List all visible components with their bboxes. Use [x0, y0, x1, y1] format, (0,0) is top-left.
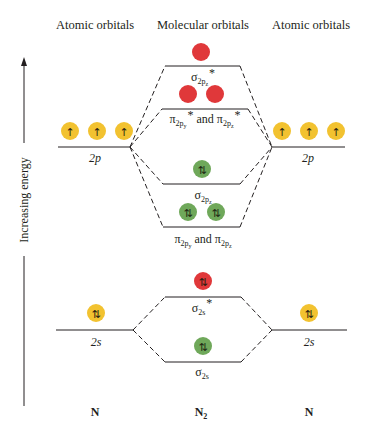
pi2p-star-label: π2py* and π2pz*	[169, 108, 240, 129]
sigma2pz-star-label: σ2pz*	[191, 66, 215, 87]
right-2s-label: 2s	[304, 335, 315, 349]
spin-up-icon: ↑	[119, 126, 128, 139]
sigma2s-label: σ2s	[195, 365, 209, 381]
mo-diagram: Atomic orbitals Molecular orbitals Atomi…	[0, 0, 369, 440]
pi2py-star-orbital-empty	[179, 85, 197, 103]
sigma2pz-label: σ2pz	[194, 188, 211, 205]
molecule-label: N2	[195, 405, 208, 421]
spin-up-icon: ↑	[304, 126, 313, 139]
spin-up-icon: ↑	[331, 126, 340, 139]
pi2pz-star-orbital-empty	[206, 85, 224, 103]
arrow-up-icon	[21, 57, 27, 66]
left-2p-orbitals: ↑ ↑ ↑	[61, 122, 133, 140]
right-2p-orbitals: ↑ ↑ ↑	[273, 122, 345, 140]
right-2p-label: 2p	[302, 151, 314, 165]
sigma2s-star-label: σ2s*	[192, 296, 213, 317]
spin-pair-icon: ⇅	[198, 276, 207, 289]
spin-up-icon: ↑	[92, 126, 101, 139]
spin-pair-icon: ⇅	[304, 308, 313, 321]
header-right: Atomic orbitals	[272, 18, 350, 32]
header-center: Molecular orbitals	[157, 18, 249, 32]
spin-pair-icon: ⇅	[183, 207, 192, 220]
spin-pair-icon: ⇅	[198, 341, 207, 354]
spin-up-icon: ↑	[277, 126, 286, 139]
spin-up-icon: ↑	[65, 126, 74, 139]
sigma2pz-star-orbital-empty	[192, 43, 210, 61]
right-atom-label: N	[305, 405, 314, 419]
pi2p-label: π2py and π2pz	[174, 232, 231, 249]
energy-axis: Increasing energy	[17, 57, 31, 406]
header-left: Atomic orbitals	[56, 18, 134, 32]
left-atom-label: N	[91, 405, 100, 419]
spin-pair-icon: ⇅	[91, 308, 100, 321]
spin-pair-icon: ⇅	[197, 164, 206, 177]
left-2p-label: 2p	[89, 151, 101, 165]
left-2s-label: 2s	[91, 335, 102, 349]
energy-axis-label: Increasing energy	[17, 157, 31, 242]
spin-pair-icon: ⇅	[211, 207, 220, 220]
